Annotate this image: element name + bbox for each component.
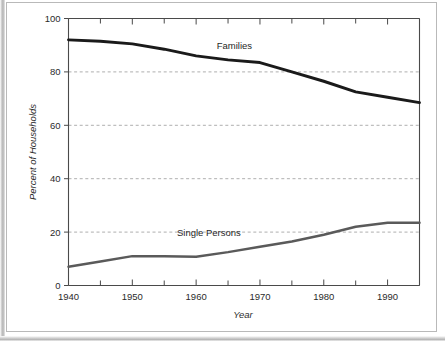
- y-tick-label: 60: [50, 120, 61, 131]
- x-tick-label: 1940: [58, 291, 79, 302]
- y-tick-label: 20: [50, 227, 61, 238]
- series-lines: [69, 40, 420, 267]
- axes: [69, 19, 420, 286]
- x-tick-label: 1970: [249, 291, 270, 302]
- series-line-single-persons: [69, 223, 420, 267]
- y-axis-title: Percent of Households: [27, 104, 38, 200]
- figure-card: 020406080100 194019501960197019801990 Fa…: [0, 0, 445, 341]
- y-tick-label: 100: [45, 13, 61, 24]
- y-tick-labels: 020406080100: [45, 13, 61, 291]
- series-inline-labels: FamiliesSingle Persons: [177, 40, 252, 238]
- line-chart: 020406080100 194019501960197019801990 Fa…: [0, 0, 445, 341]
- y-tick-label: 0: [55, 280, 60, 291]
- series-label-families: Families: [217, 40, 253, 51]
- gridlines: [69, 72, 420, 232]
- x-tick-labels: 194019501960197019801990: [58, 291, 398, 302]
- x-tick-label: 1950: [122, 291, 143, 302]
- series-label-single-persons: Single Persons: [177, 227, 241, 238]
- x-axis-title: Year: [233, 309, 253, 320]
- tick-marks: [64, 19, 420, 286]
- y-tick-label: 40: [50, 173, 61, 184]
- x-tick-label: 1990: [377, 291, 398, 302]
- x-tick-label: 1960: [186, 291, 207, 302]
- y-tick-label: 80: [50, 66, 61, 77]
- x-tick-label: 1980: [313, 291, 334, 302]
